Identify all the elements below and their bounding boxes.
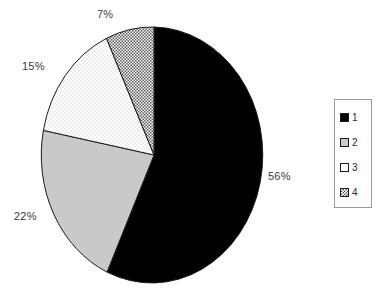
chart-legend: 1 2 3 4 (334, 99, 372, 208)
legend-item-4[interactable]: 4 (340, 180, 371, 205)
legend-item-label: 3 (352, 163, 358, 173)
gray-square-swatch-icon (340, 138, 349, 147)
legend-item-label: 1 (352, 113, 358, 123)
legend-item-label: 2 (352, 138, 358, 148)
slice-label-4: 7% (97, 8, 113, 20)
pie-chart-figure: 56% 22% 15% 7% 1 2 3 4 (0, 0, 391, 293)
legend-item-3[interactable]: 3 (340, 155, 371, 180)
black-square-swatch-icon (340, 113, 349, 122)
pie-chart-graphic (0, 0, 391, 293)
legend-item-1[interactable]: 1 (340, 105, 371, 130)
slice-label-2: 22% (14, 210, 37, 222)
slice-label-1: 56% (268, 170, 291, 182)
legend-item-label: 4 (352, 188, 358, 198)
white-square-swatch-icon (340, 163, 349, 172)
legend-item-2[interactable]: 2 (340, 130, 371, 155)
slice-label-3: 15% (22, 60, 45, 72)
hatched-square-swatch-icon (340, 188, 349, 197)
